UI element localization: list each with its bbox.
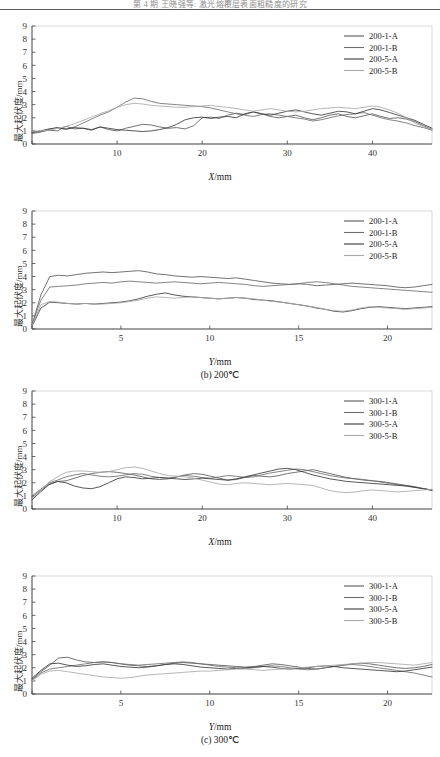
svg-text:40: 40: [368, 148, 378, 158]
panel-b-plot: 01234567895101520200-1-A200-1-B200-5-A20…: [0, 205, 440, 355]
svg-text:300-5-B: 300-5-B: [369, 616, 398, 626]
svg-text:200-5-B: 200-5-B: [369, 251, 398, 261]
panel-c: 012345678910203040300-1-A300-1-B300-5-A3…: [0, 385, 440, 535]
chart-svg-b: 01234567895101520200-1-A200-1-B200-5-A20…: [0, 205, 440, 355]
svg-text:300-1-B: 300-1-B: [369, 593, 398, 603]
svg-text:300-1-A: 300-1-A: [369, 396, 399, 406]
svg-text:20: 20: [198, 148, 208, 158]
svg-text:9: 9: [23, 571, 28, 581]
svg-text:30: 30: [283, 513, 293, 523]
svg-text:10: 10: [205, 333, 215, 343]
svg-text:20: 20: [383, 698, 393, 708]
panel-d-xlabel: Y/mm: [0, 722, 440, 732]
svg-text:300-5-B: 300-5-B: [369, 431, 398, 441]
panel-d-ylabel: 最大起伏度/mm: [12, 630, 25, 692]
svg-text:200-1-B: 200-1-B: [369, 43, 398, 53]
svg-text:8: 8: [23, 219, 28, 229]
svg-text:9: 9: [23, 21, 28, 31]
panel-d-plot: 01234567895101520300-1-A300-1-B300-5-A30…: [0, 570, 440, 720]
panel-c-xlabel: X/mm: [0, 537, 440, 547]
svg-text:200-5-B: 200-5-B: [369, 66, 398, 76]
svg-text:7: 7: [23, 232, 28, 242]
panel-a-xlabel-unit: /mm: [214, 172, 231, 182]
panel-a-xlabel: X/mm: [0, 172, 440, 182]
svg-text:10: 10: [113, 513, 123, 523]
svg-text:200-5-A: 200-5-A: [369, 239, 399, 249]
svg-text:9: 9: [23, 206, 28, 216]
panel-b: 01234567895101520200-1-A200-1-B200-5-A20…: [0, 205, 440, 355]
svg-text:200-5-A: 200-5-A: [369, 54, 399, 64]
svg-text:30: 30: [283, 148, 293, 158]
svg-text:7: 7: [23, 597, 28, 607]
svg-text:20: 20: [383, 333, 393, 343]
svg-text:10: 10: [205, 698, 215, 708]
chart-svg-c: 012345678910203040300-1-A300-1-B300-5-A3…: [0, 385, 440, 535]
panel-b-xlabel-unit: /mm: [214, 357, 231, 367]
figure-page: 第 4 期 王晓强等: 激光熔覆层表面粗糙度的研究 01234567891020…: [0, 0, 440, 757]
svg-text:15: 15: [294, 698, 304, 708]
panel-c-xlabel-unit: /mm: [214, 537, 231, 547]
panel-b-ylabel: 最大起伏度/mm: [12, 265, 25, 327]
panel-d-caption: (c) 300℃: [0, 734, 440, 745]
svg-text:300-5-A: 300-5-A: [369, 604, 399, 614]
svg-text:6: 6: [23, 246, 28, 256]
svg-text:8: 8: [23, 34, 28, 44]
running-head: 第 4 期 王晓强等: 激光熔覆层表面粗糙度的研究: [0, 0, 440, 9]
svg-text:9: 9: [23, 386, 28, 396]
panel-a: 012345678910203040200-1-A200-1-B200-5-A2…: [0, 20, 440, 170]
svg-text:300-1-B: 300-1-B: [369, 408, 398, 418]
panel-b-xlabel: Y/mm: [0, 357, 440, 367]
svg-text:200-1-B: 200-1-B: [369, 228, 398, 238]
panel-c-plot: 012345678910203040300-1-A300-1-B300-5-A3…: [0, 385, 440, 535]
panel-d: 01234567895101520300-1-A300-1-B300-5-A30…: [0, 570, 440, 720]
svg-text:6: 6: [23, 61, 28, 71]
header-rule: [0, 9, 440, 10]
svg-text:10: 10: [113, 148, 123, 158]
svg-text:7: 7: [23, 47, 28, 57]
svg-text:300-1-A: 300-1-A: [369, 581, 399, 591]
panel-a-plot: 012345678910203040200-1-A200-1-B200-5-A2…: [0, 20, 440, 170]
svg-text:200-1-A: 200-1-A: [369, 216, 399, 226]
chart-svg-d: 01234567895101520300-1-A300-1-B300-5-A30…: [0, 570, 440, 720]
svg-text:8: 8: [23, 584, 28, 594]
panel-a-ylabel: 最大起伏度/mm: [12, 80, 25, 142]
panel-b-caption: (b) 200℃: [0, 369, 440, 380]
svg-text:300-5-A: 300-5-A: [369, 419, 399, 429]
svg-text:5: 5: [119, 333, 124, 343]
svg-text:5: 5: [119, 698, 124, 708]
svg-text:200-1-A: 200-1-A: [369, 31, 399, 41]
svg-text:7: 7: [23, 412, 28, 422]
panel-c-ylabel: 最大起伏度/mm: [12, 445, 25, 507]
svg-text:8: 8: [23, 399, 28, 409]
panel-d-xlabel-unit: /mm: [214, 722, 231, 732]
chart-svg-a: 012345678910203040200-1-A200-1-B200-5-A2…: [0, 20, 440, 170]
svg-text:6: 6: [23, 426, 28, 436]
svg-text:6: 6: [23, 611, 28, 621]
svg-text:20: 20: [198, 513, 208, 523]
svg-text:40: 40: [368, 513, 378, 523]
svg-text:15: 15: [294, 333, 304, 343]
